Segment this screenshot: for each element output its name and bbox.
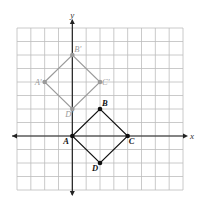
x-axis-right-arrow-icon (183, 134, 188, 139)
vertex-point-d (98, 161, 103, 166)
vertex-label-d: D (91, 163, 98, 173)
vertex-point-a (70, 134, 75, 139)
y-axis-down-arrow-icon (70, 191, 75, 196)
vertex-label-b: B (101, 98, 108, 108)
vertex-label-d-prime: D' (64, 109, 73, 119)
coordinate-plane-figure: xyA'B'C'D'ABCD (0, 0, 204, 200)
vertex-point-a-prime (42, 80, 47, 85)
vertex-label-c-prime: C' (102, 77, 110, 87)
y-axis-label: y (69, 10, 74, 20)
vertex-label-b-prime: B' (74, 44, 81, 54)
x-axis-label: x (189, 131, 194, 141)
x-axis-left-arrow-icon (12, 134, 17, 139)
vertex-label-a-prime: A' (34, 77, 42, 87)
vertex-label-a: A (62, 136, 69, 146)
vertex-label-c: C (129, 136, 135, 146)
